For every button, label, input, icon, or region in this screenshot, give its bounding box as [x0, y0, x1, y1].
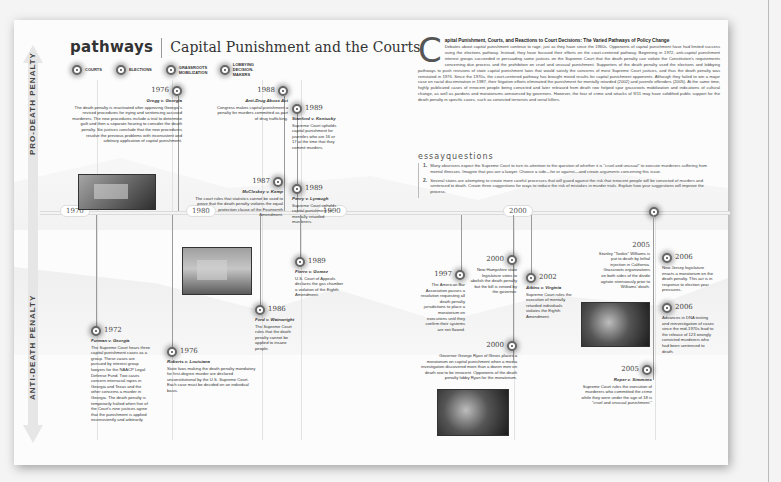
- event-case-name: Roper v. Simmons: [580, 377, 652, 383]
- courts-dot-icon: [167, 347, 177, 357]
- event-stem: [461, 215, 462, 275]
- event-anti-drug-abuse-act: 1988 Anti-Drug Abuse Act Congress makes …: [215, 86, 288, 121]
- event-year: 2000: [486, 257, 504, 263]
- page-edge-line: [768, 0, 769, 482]
- event-case-name: Stanford v. Kentucky: [292, 116, 340, 122]
- legend-label: Lobbying Decision-Makers: [233, 62, 264, 77]
- event-description: Congress makes capital punishment a pena…: [215, 105, 288, 122]
- event-roberts-v-louisiana: 1976 Roberts v. Louisiana State laws mak…: [167, 347, 257, 394]
- legend: Courts Elections Grassroots Mobilization…: [72, 62, 264, 77]
- timeline-marker-icon: [649, 207, 659, 217]
- lobbying-dot-icon: [455, 270, 465, 280]
- event-case-name: Anti-Drug Abuse Act: [215, 98, 288, 104]
- courts-dot-icon: [255, 305, 265, 315]
- event-description: New Jersey legislature enacts a moratori…: [662, 265, 714, 293]
- grid-line: [514, 215, 515, 440]
- event-atkins-v-virginia: 2002 Atkins v. Virginia Supreme Court ru…: [526, 273, 576, 320]
- event-case-name: McCleskey v. Kemp: [195, 189, 283, 195]
- event-new-jersey-moratorium: 2006 New Jersey legislature enacts a mor…: [662, 253, 714, 293]
- essay-question: 2. Several states are attempting to crea…: [423, 178, 718, 195]
- elections-dot-icon: [507, 255, 517, 265]
- event-year: 2002: [539, 275, 557, 281]
- event-description: Supreme Court upholds capital punishment…: [292, 123, 340, 151]
- legend-label: Grassroots Mobilization: [179, 65, 208, 75]
- event-stem: [260, 215, 261, 310]
- event-stem: [172, 215, 173, 352]
- courts-dot-icon: [72, 65, 82, 75]
- event-case-name: Gregg v. Georgia: [70, 98, 182, 104]
- event-year: 1989: [308, 259, 326, 265]
- event-stem: [96, 215, 97, 331]
- event-year: 2005: [632, 243, 650, 249]
- event-year: 1989: [305, 106, 323, 112]
- event-dna-testing: 2006 Advances in DNA testing and reinves…: [662, 303, 714, 354]
- event-description: New Hampshire state legislature votes to…: [470, 267, 517, 295]
- courts-dot-icon: [172, 86, 182, 96]
- pro-death-penalty-label: PRO-DEATH PENALTY: [28, 52, 37, 155]
- courts-dot-icon: [91, 326, 101, 336]
- event-new-hampshire-vote: 2000 New Hampshire state legislature vot…: [470, 255, 517, 295]
- event-description: Stanley "Tookie" Williams is put to deat…: [598, 251, 650, 290]
- event-roper-v-simmons: 2005 Roper v. Simmons Supreme Court rule…: [580, 365, 652, 406]
- event-case-name: Ford v. Wainwright: [255, 317, 301, 323]
- grassroots-dot-icon: [662, 303, 672, 313]
- event-case-name: Atkins v. Virginia: [526, 285, 576, 291]
- elections-dot-icon: [662, 253, 672, 263]
- event-furman-v-georgia: 1972 Furman v. Georgia The Supreme Court…: [91, 326, 151, 423]
- legend-courts: Courts: [72, 65, 102, 75]
- legend-label: Courts: [85, 67, 102, 72]
- essay-body: Debates about capital punishment continu…: [418, 44, 720, 103]
- essay-section: C apital Punishment, Courts, and Reactio…: [418, 38, 720, 103]
- courts-dot-icon: [295, 257, 305, 267]
- event-description: The American Bar Association passes a re…: [420, 282, 465, 332]
- press-crowd-photo: [437, 389, 509, 436]
- question-text: Many observers expect the Supreme Court …: [430, 163, 718, 175]
- event-description: Supreme Court rules the execution of mur…: [580, 384, 652, 406]
- event-description: U.S. Court of Appeals declares the gas c…: [295, 276, 345, 298]
- legend-lobbying: Lobbying Decision-Makers: [220, 62, 264, 77]
- event-year: 1986: [268, 307, 286, 313]
- essay-questions-title: essayquestions: [418, 152, 494, 161]
- event-year: 1989: [305, 186, 323, 192]
- event-case-name: Penry v. Lynaugh: [292, 196, 340, 202]
- title-divider: [161, 38, 162, 58]
- event-mccleskey-v-kemp: 1987 McCleskey v. Kemp The court rules t…: [195, 177, 283, 218]
- elections-dot-icon: [116, 65, 126, 75]
- event-year: 1972: [104, 328, 122, 334]
- event-stem: [653, 215, 654, 380]
- event-description: State laws making the death penalty mand…: [167, 366, 257, 394]
- event-description: The Supreme Court rules that the death p…: [255, 324, 301, 352]
- event-year: 2000: [486, 343, 504, 349]
- pathways-brand: pathways: [70, 38, 153, 56]
- event-year: 1988: [257, 88, 275, 94]
- protest-photo: [182, 247, 252, 295]
- essay-questions-list: 1. Many observers expect the Supreme Cou…: [418, 163, 718, 198]
- event-description: The Supreme Court hears three capital pu…: [91, 345, 151, 423]
- event-description: Supreme Court rules the execution of men…: [526, 292, 576, 320]
- arrow-down-icon: [23, 425, 43, 443]
- event-year: 2006: [675, 255, 693, 261]
- event-governor-ryan-moratorium: 2000 Governor George Ryan of Illinois pl…: [420, 341, 517, 381]
- courts-dot-icon: [273, 177, 283, 187]
- page-title-row: pathways Capital Punishment and the Cour…: [70, 38, 420, 58]
- essay-question: 1. Many observers expect the Supreme Cou…: [423, 163, 718, 175]
- event-stem: [531, 215, 532, 275]
- drop-cap: C: [418, 36, 442, 64]
- event-year: 1976: [180, 349, 198, 355]
- event-case-name: Fierro v. Gomez: [295, 269, 345, 275]
- event-case-name: Furman v. Georgia: [91, 338, 151, 344]
- legend-elections: Elections: [116, 65, 152, 75]
- courts-dot-icon: [526, 273, 536, 283]
- event-aba-resolution: 1997 The American Bar Association passes…: [420, 270, 465, 332]
- event-stem: [300, 215, 301, 260]
- event-tookie-williams: 2005 Stanley "Tookie" Williams is put to…: [598, 243, 650, 290]
- anti-death-penalty-label: ANTI-DEATH PENALTY: [28, 295, 37, 400]
- question-number: 1.: [423, 163, 427, 175]
- legend-grassroots: Grassroots Mobilization: [166, 65, 206, 75]
- event-year: 1976: [151, 88, 169, 94]
- timeline-tick-2000: 2000: [503, 205, 533, 217]
- event-ford-v-wainwright: 1986 Ford v. Wainwright The Supreme Cour…: [255, 305, 301, 352]
- event-description: The death penalty is reactivated after a…: [70, 105, 182, 144]
- event-description: The court rules that statistics cannot b…: [195, 196, 283, 218]
- lobbying-dot-icon: [220, 65, 230, 75]
